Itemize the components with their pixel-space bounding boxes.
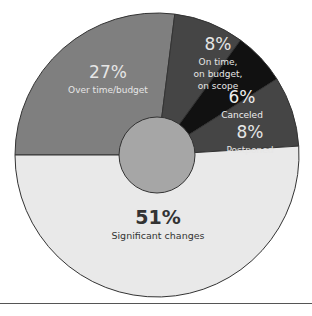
- slice-category-label: On time,: [199, 57, 238, 67]
- donut-chart: 27%Over time/budget8%On time,on budget,o…: [0, 0, 312, 316]
- slice-percent-label: 51%: [135, 206, 180, 228]
- slice-category-label: Significant changes: [111, 230, 204, 241]
- slice-percent-label: 8%: [237, 122, 264, 142]
- slice-percent-label: 8%: [205, 34, 232, 54]
- slice-category-label: Postponed: [226, 145, 273, 155]
- center-circle: [119, 117, 195, 193]
- slice-percent-label: 6%: [229, 87, 256, 107]
- slice-category-label: on budget,: [194, 69, 243, 79]
- slice-category-label: Canceled: [221, 110, 263, 120]
- slice-category-label: Over time/budget: [68, 85, 148, 95]
- slice-percent-label: 27%: [89, 62, 127, 82]
- bottom-divider: [0, 303, 312, 304]
